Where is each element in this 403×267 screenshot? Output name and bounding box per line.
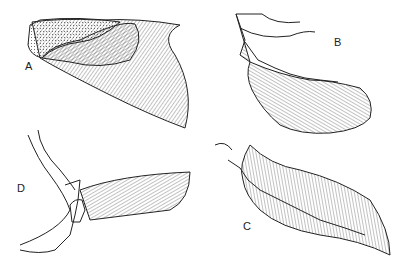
panel-label-a: A — [25, 60, 32, 72]
panel-label-b: B — [334, 36, 341, 48]
panel-d-fin — [20, 130, 190, 253]
panel-a-fin — [28, 18, 188, 128]
fin-diagram — [0, 0, 403, 267]
panel-label-c: C — [243, 220, 251, 232]
panel-b-fin — [236, 14, 371, 133]
panel-c-fin — [215, 143, 390, 255]
panel-label-d: D — [17, 182, 25, 194]
